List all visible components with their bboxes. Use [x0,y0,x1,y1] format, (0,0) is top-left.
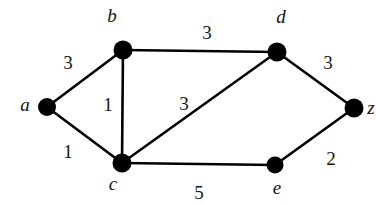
graph-edge-c-d [122,52,277,163]
graph-node-z [345,99,364,118]
edge-weight-a-b: 3 [63,53,73,72]
node-label-z: z [367,98,374,117]
weighted-graph-diagram: abcdez 31133532 [0,0,376,205]
node-label-d: d [276,7,286,26]
node-label-c: c [109,174,117,193]
edge-weight-c-d: 3 [179,94,189,113]
graph-edge-c-e [122,163,275,165]
edges-layer [47,50,354,165]
edge-weight-b-d: 3 [202,23,212,42]
edge-weight-e-z: 2 [326,149,336,168]
edge-weight-c-e: 5 [194,183,204,202]
graph-edge-b-d [123,50,277,52]
node-label-b: b [107,6,117,25]
node-label-e: e [273,178,281,197]
graph-node-d [268,43,287,62]
graph-edge-e-z [275,108,354,165]
graph-node-a [38,98,56,116]
edge-weight-b-c: 1 [103,95,113,114]
graph-node-e [267,157,284,174]
node-label-a: a [20,95,30,114]
graph-node-b [114,41,133,60]
graph-edge-a-c [47,107,122,163]
graph-edge-b-c [122,50,123,163]
edge-weight-a-c: 1 [63,142,73,161]
edge-weight-d-z: 3 [323,53,333,72]
graph-node-c [113,154,132,173]
graph-edge-d-z [277,52,354,108]
